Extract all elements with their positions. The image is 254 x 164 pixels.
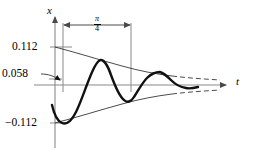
damped-oscillation-figure: x t 0.112 0.058 −0.112 π 4 (0, 0, 254, 164)
x-axis-label: x (47, 5, 52, 16)
lower-amplitude-label: −0.112 (5, 117, 37, 129)
upper-envelope-dashed (172, 76, 220, 80)
upper-envelope-solid (55, 47, 172, 76)
period-dimension-numerator: π (90, 15, 104, 23)
period-dimension-label: π 4 (90, 15, 104, 34)
damped-oscillation-curve (52, 60, 198, 123)
period-dimension-denominator: 4 (90, 25, 104, 33)
upper-amplitude-label: 0.112 (12, 41, 37, 53)
plot-canvas (0, 0, 254, 164)
lower-envelope-dashed (172, 90, 220, 94)
t-axis-label: t (236, 76, 239, 87)
initial-value-label: 0.058 (2, 68, 28, 80)
